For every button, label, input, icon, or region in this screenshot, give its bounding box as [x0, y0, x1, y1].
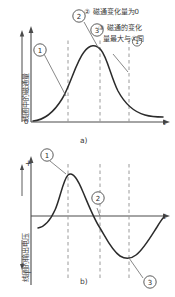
- annotation-flux-change-max-line1: ③ 磁通的变化: [98, 24, 142, 33]
- panel-b-minus-sign: −: [25, 268, 32, 277]
- panel-b-marker-1: 1: [41, 149, 53, 161]
- panel-a-y-arrow: [29, 26, 34, 33]
- svg-text:1: 1: [45, 152, 49, 160]
- panel-a-group: 1 2 3 1: [20, 10, 170, 125]
- svg-text:2: 2: [77, 13, 81, 21]
- panel-b-group: 1 2 3: [20, 149, 170, 288]
- svg-text:1: 1: [38, 47, 42, 55]
- panel-b-marker-3: 3: [144, 276, 156, 288]
- svg-text:2: 2: [96, 195, 100, 203]
- panel-b-marker-2: 2: [92, 192, 104, 204]
- panel-b-leader-1: [50, 161, 66, 174]
- panel-a-flux-curve: [33, 46, 163, 121]
- panel-a-marker-1: 1: [34, 44, 46, 56]
- panel-b-plus-arrow: [20, 164, 24, 170]
- panel-b-caption: b): [80, 277, 88, 286]
- svg-text:3: 3: [148, 279, 152, 287]
- panel-a-leader-1: [44, 54, 66, 96]
- panel-a-label-arrow: [20, 30, 24, 37]
- panel-b-plus-sign: +: [25, 159, 32, 168]
- panel-a-caption: a): [80, 136, 88, 145]
- physics-figure: 1 2 3 1: [0, 0, 175, 297]
- panel-a-y-axis-label: 线圈中的磁通量: [20, 73, 30, 122]
- panel-a-origin-label: 0: [24, 118, 28, 126]
- panel-b-leader-3: [129, 258, 143, 278]
- panel-a-time-label: t: [163, 118, 166, 127]
- annotation-flux-change-zero: ② 磁通变化量为0: [84, 8, 139, 17]
- panel-a-leader-3: [113, 54, 128, 72]
- annotation-flux-change-max-line2: 量最大与①同: [103, 35, 144, 44]
- panel-b-time-label: t: [163, 212, 166, 221]
